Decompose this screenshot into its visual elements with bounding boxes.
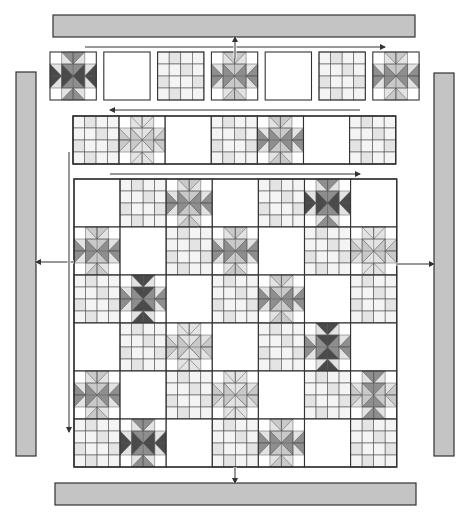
block-star-medium-v (351, 371, 397, 419)
block-grid (158, 52, 204, 100)
block-grid (351, 419, 397, 467)
block-plain (351, 179, 397, 227)
block-star-dark (50, 52, 96, 100)
block-grid (166, 227, 212, 275)
block-plain (258, 371, 304, 419)
block-grid (258, 323, 304, 371)
quilt-assembly-diagram (0, 0, 463, 518)
block-plain (265, 52, 311, 100)
block-grid (350, 116, 396, 164)
block-grid (74, 419, 120, 467)
block-grid (120, 323, 166, 371)
border-strip-bottom (55, 483, 416, 505)
block-plain (304, 116, 350, 164)
block-plain (166, 419, 212, 467)
block-plain (212, 179, 258, 227)
row-1 (50, 52, 419, 100)
block-grid (120, 179, 166, 227)
block-star-medium (258, 419, 304, 467)
block-star-light (351, 227, 397, 275)
block-grid (74, 275, 120, 323)
block-plain (120, 371, 166, 419)
block-star-dark-v (120, 275, 166, 323)
block-star-medium (212, 227, 258, 275)
block-star-medium (166, 179, 212, 227)
block-star-medium (258, 275, 304, 323)
block-star-light (166, 323, 212, 371)
block-star-light (119, 116, 165, 164)
border-strip-top (53, 15, 415, 37)
block-star-dark (305, 179, 351, 227)
block-plain (104, 52, 150, 100)
block-grid (212, 275, 258, 323)
block-plain (305, 419, 351, 467)
block-plain (258, 227, 304, 275)
assembly-rows (50, 52, 419, 164)
block-plain (351, 323, 397, 371)
block-star-medium (74, 227, 120, 275)
main-quilt-grid (74, 179, 397, 467)
block-grid (258, 179, 304, 227)
block-plain (305, 275, 351, 323)
block-grid (166, 371, 212, 419)
block-star-dark (120, 419, 166, 467)
block-star-medium (211, 52, 257, 100)
block-star-light (212, 371, 258, 419)
block-grid (73, 116, 119, 164)
block-plain (74, 323, 120, 371)
block-plain (120, 227, 166, 275)
block-grid (351, 275, 397, 323)
block-grid (212, 419, 258, 467)
block-star-dark-v (305, 323, 351, 371)
block-star-medium (373, 52, 419, 100)
block-star-medium (257, 116, 303, 164)
block-grid (305, 371, 351, 419)
block-plain (166, 275, 212, 323)
block-star-medium (74, 371, 120, 419)
block-grid (211, 116, 257, 164)
border-strip-right (434, 73, 454, 456)
block-plain (74, 179, 120, 227)
block-plain (165, 116, 211, 164)
row-2 (73, 116, 396, 164)
block-grid (319, 52, 365, 100)
border-strip-left (16, 72, 36, 456)
block-grid (305, 227, 351, 275)
block-plain (212, 323, 258, 371)
